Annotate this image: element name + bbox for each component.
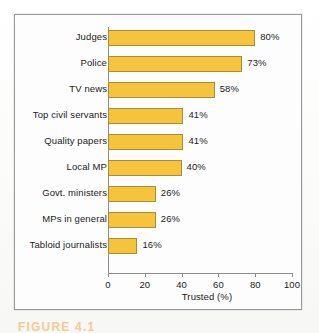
- bar-value-label: 80%: [260, 31, 279, 42]
- bar-row: TV news58%: [15, 79, 303, 105]
- bar: [108, 56, 242, 72]
- x-tick-label: 20: [140, 279, 151, 290]
- x-tick: [182, 273, 183, 277]
- bar: [108, 186, 156, 202]
- category-label: Top civil servants: [0, 109, 107, 120]
- chart-frame: Judges80%Police73%TV news58%Top civil se…: [14, 14, 302, 310]
- bar-value-label: 26%: [161, 213, 180, 224]
- category-label: Tabloid journalists: [0, 239, 107, 250]
- bar-row: Govt. ministers26%: [15, 183, 303, 209]
- bar-value-label: 16%: [142, 239, 161, 250]
- bar-value-label: 73%: [247, 57, 266, 68]
- category-label: TV news: [0, 83, 107, 94]
- category-label: MPs in general: [0, 213, 107, 224]
- x-tick-label: 40: [176, 279, 187, 290]
- bar-row: Judges80%: [15, 27, 303, 53]
- bar-rows: Judges80%Police73%TV news58%Top civil se…: [15, 27, 303, 261]
- plot-area: Judges80%Police73%TV news58%Top civil se…: [15, 15, 303, 311]
- bar: [108, 30, 255, 46]
- x-tick-label: 0: [105, 279, 110, 290]
- x-tick: [292, 273, 293, 277]
- category-label: Judges: [0, 31, 107, 42]
- bar-value-label: 26%: [161, 187, 180, 198]
- bar-row: Local MP40%: [15, 157, 303, 183]
- bar-row: Top civil servants41%: [15, 105, 303, 131]
- bar: [108, 108, 183, 124]
- x-tick-label: 100: [284, 279, 300, 290]
- category-label: Police: [0, 57, 107, 68]
- bar: [108, 82, 215, 98]
- x-axis-title: Trusted (%): [15, 291, 303, 302]
- x-axis-title-text: Trusted (%): [182, 291, 232, 302]
- x-tick: [255, 273, 256, 277]
- bar-row: Tabloid journalists16%: [15, 235, 303, 261]
- category-label: Quality papers: [0, 135, 107, 146]
- bar: [108, 134, 183, 150]
- bar-row: Police73%: [15, 53, 303, 79]
- x-tick-label: 80: [250, 279, 261, 290]
- figure-caption: FIGURE 4.1: [18, 320, 95, 333]
- bar-row: MPs in general26%: [15, 209, 303, 235]
- bar: [108, 160, 182, 176]
- x-tick: [145, 273, 146, 277]
- x-tick: [108, 273, 109, 277]
- category-label: Govt. ministers: [0, 187, 107, 198]
- category-label: Local MP: [0, 161, 107, 172]
- figure-page: Judges80%Police73%TV news58%Top civil se…: [0, 0, 319, 333]
- x-tick-label: 60: [213, 279, 224, 290]
- bar-value-label: 41%: [188, 135, 207, 146]
- bar-value-label: 40%: [187, 161, 206, 172]
- bar-value-label: 41%: [188, 109, 207, 120]
- bar: [108, 238, 137, 254]
- bar: [108, 212, 156, 228]
- x-tick: [218, 273, 219, 277]
- bar-row: Quality papers41%: [15, 131, 303, 157]
- bar-value-label: 58%: [220, 83, 239, 94]
